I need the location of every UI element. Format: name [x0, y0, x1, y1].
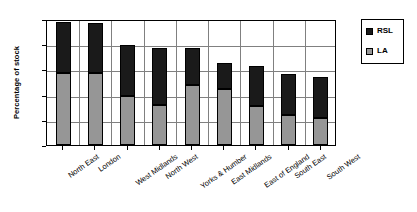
bar-group[interactable]: [217, 19, 232, 145]
bar-segment-la[interactable]: [281, 115, 296, 145]
category-separator: [273, 21, 274, 145]
bar-segment-rsl[interactable]: [281, 74, 296, 115]
bar-segment-rsl[interactable]: [249, 66, 264, 105]
x-tick-mark: [320, 146, 321, 150]
legend-swatch-icon: [366, 28, 373, 35]
legend-item[interactable]: RSL: [366, 27, 393, 35]
y-axis-title: Percentage of stock: [12, 23, 21, 143]
x-tick-mark: [127, 146, 128, 150]
bar-segment-la[interactable]: [217, 89, 232, 145]
bar-segment-la[interactable]: [88, 73, 103, 145]
bar-group[interactable]: [56, 19, 71, 145]
x-tick-mark: [255, 146, 256, 150]
legend-item[interactable]: LA: [366, 47, 388, 55]
bar-segment-la[interactable]: [313, 118, 328, 145]
bar-segment-la[interactable]: [152, 105, 167, 145]
legend-label: RSL: [377, 27, 393, 35]
legend-swatch-icon: [366, 48, 373, 55]
category-separator: [144, 21, 145, 145]
bar-group[interactable]: [249, 19, 264, 145]
x-tick-mark: [94, 146, 95, 150]
plot-area: [46, 20, 336, 146]
bar-segment-rsl[interactable]: [152, 48, 167, 105]
bar-segment-la[interactable]: [249, 106, 264, 145]
legend: RSLLA: [361, 19, 404, 64]
bar-group[interactable]: [313, 19, 328, 145]
bar-group[interactable]: [88, 19, 103, 145]
category-separator: [208, 21, 209, 145]
legend-label: LA: [377, 47, 388, 55]
category-separator: [240, 21, 241, 145]
bar-group[interactable]: [152, 19, 167, 145]
bar-group[interactable]: [120, 19, 135, 145]
bar-segment-rsl[interactable]: [313, 77, 328, 118]
stacked-bar-chart: Percentage of stock 0510152025 North Eas…: [0, 0, 417, 212]
bar-group[interactable]: [185, 19, 200, 145]
bar-segment-rsl[interactable]: [56, 22, 71, 73]
bar-segment-rsl[interactable]: [120, 45, 135, 96]
category-separator: [111, 21, 112, 145]
category-separator: [305, 21, 306, 145]
y-tick-mark: [42, 146, 46, 147]
x-tick-mark: [62, 146, 63, 150]
x-tick-mark: [159, 146, 160, 150]
category-separator: [176, 21, 177, 145]
bar-segment-rsl[interactable]: [185, 48, 200, 85]
bar-segment-la[interactable]: [185, 85, 200, 145]
x-axis-label: London: [97, 152, 123, 174]
bar-segment-rsl[interactable]: [88, 23, 103, 73]
x-tick-mark: [223, 146, 224, 150]
x-tick-mark: [191, 146, 192, 150]
x-axis-label: South West: [325, 152, 362, 182]
bar-segment-rsl[interactable]: [217, 63, 232, 89]
x-tick-mark: [288, 146, 289, 150]
bar-segment-la[interactable]: [120, 96, 135, 145]
bar-segment-la[interactable]: [56, 73, 71, 145]
category-separator: [79, 21, 80, 145]
bar-group[interactable]: [281, 19, 296, 145]
